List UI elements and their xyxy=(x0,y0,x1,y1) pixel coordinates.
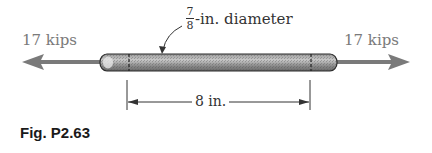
left-force-arrow xyxy=(22,54,104,70)
left-load-label: 17 kips xyxy=(22,31,77,49)
fraction-numerator: 7 xyxy=(187,6,194,17)
length-label: 8 in. xyxy=(192,93,229,109)
figure-caption: Fig. P2.63 xyxy=(20,124,90,141)
right-load-label: 17 kips xyxy=(344,31,399,49)
diameter-suffix: -in. diameter xyxy=(195,10,293,28)
diameter-leader-arrow xyxy=(159,26,182,54)
diameter-fraction: 7 8 xyxy=(186,6,194,31)
right-force-arrow xyxy=(334,54,410,70)
rod xyxy=(100,54,337,71)
diagram-canvas: 17 kips 17 kips 7 8 -in. diameter 8 in. … xyxy=(0,0,432,153)
diameter-label: 7 8 -in. diameter xyxy=(186,6,293,31)
fraction-denominator: 8 xyxy=(187,20,194,31)
